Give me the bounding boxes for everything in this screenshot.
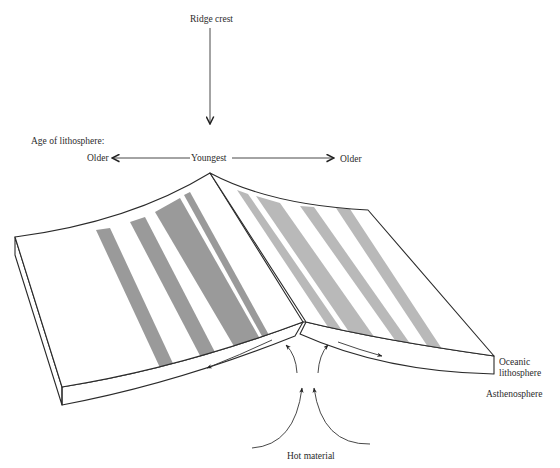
age-older-right-label: Older [340, 154, 362, 165]
ridge-crest-label: Ridge crest [190, 14, 233, 25]
age-axis-heading: Age of lithosphere: [31, 136, 104, 147]
age-youngest-label: Youngest [191, 153, 226, 164]
asthenosphere-label: Asthenosphere [486, 389, 542, 400]
seafloor-spreading-diagram [0, 0, 560, 468]
oceanic-lithosphere-label: Oceanic lithosphere [499, 357, 541, 379]
oceanic-lithosphere-label-line1: Oceanic [499, 357, 541, 368]
hot-material-arrows [252, 388, 370, 448]
hot-material-label: Hot material [287, 451, 335, 462]
oceanic-lithosphere-label-line2: lithosphere [499, 368, 541, 379]
age-older-left-label: Older [87, 153, 109, 164]
